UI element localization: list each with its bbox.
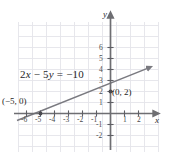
x-tick-label-neg2: -2 — [77, 116, 83, 124]
graph-figure: y x 6 5 4 3 2 1 -1 -2 -6 -5 -4 -3 -2 -1 … — [0, 0, 171, 156]
x-intercept-point-label: (−5, 0) — [2, 97, 27, 106]
y-tick-label-2: 2 — [99, 88, 103, 96]
x-tick-label-neg1: -1 — [91, 116, 97, 124]
y-tick-label-neg2: -2 — [96, 132, 102, 140]
y-tick-label-4: 4 — [99, 66, 103, 74]
y-intercept-point-label: (0, 2) — [112, 88, 132, 97]
x-tick-label-neg4: -4 — [49, 116, 55, 124]
y-tick-label-6: 6 — [99, 44, 103, 52]
equation-right-side: −10 — [66, 68, 84, 80]
grid-lines — [19, 22, 159, 152]
x-axis-label: x — [155, 116, 159, 125]
equation-label: 2x − 5y = −10 — [20, 69, 84, 80]
x-tick-label-2: 2 — [137, 116, 141, 124]
equation-operator-minus: − — [31, 68, 43, 80]
x-tick-label-1: 1 — [123, 116, 127, 124]
y-tick-label-1: 1 — [99, 99, 103, 107]
x-tick-label-neg6: -6 — [21, 116, 27, 124]
y-tick-label-3: 3 — [99, 77, 103, 85]
x-tick-label-neg5: -5 — [35, 116, 41, 124]
equation-operator-equals: = — [54, 68, 66, 80]
y-axis-label: y — [103, 10, 107, 19]
x-tick-label-neg3: -3 — [63, 116, 69, 124]
y-tick-label-5: 5 — [99, 55, 103, 63]
